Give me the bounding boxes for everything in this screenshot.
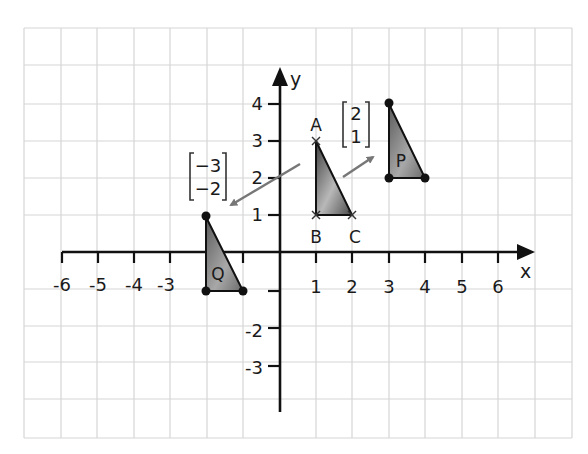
y-tick-label: -3 <box>245 357 263 378</box>
arrow-to-p-icon <box>343 157 373 177</box>
x-tick-label: 5 <box>456 276 467 297</box>
y-tick-label: 3 <box>252 130 263 151</box>
vector-top: 2 <box>350 103 361 124</box>
y-ticks <box>268 104 280 366</box>
x-tick-label: -4 <box>125 274 143 295</box>
shape-label-q: Q <box>211 264 224 284</box>
y-tick-label: 4 <box>252 93 263 114</box>
y-tick-label: -2 <box>245 320 263 341</box>
vertex-label-c: C <box>349 227 361 247</box>
vector-bottom: −2 <box>195 178 222 199</box>
x-tick-label: -5 <box>89 274 107 295</box>
dot-marker-icon <box>202 212 211 221</box>
vertex-label-a: A <box>310 115 322 135</box>
vector-bottom: 1 <box>350 126 361 147</box>
x-tick-label: 1 <box>310 276 321 297</box>
y-axis-arrow-icon <box>272 67 288 86</box>
x-tick-label: 6 <box>492 276 503 297</box>
x-tick-label: 3 <box>383 276 394 297</box>
y-tick-labels: 4 3 2 1 -2 -3 <box>245 93 263 378</box>
dot-marker-icon <box>202 287 211 296</box>
dot-marker-icon <box>239 287 248 296</box>
shape-label-p: P <box>396 151 406 171</box>
vector-to-q: −3 −2 <box>190 153 226 200</box>
y-axis-label: y <box>290 68 301 90</box>
triangle-q: Q <box>202 212 248 296</box>
x-tick-label: -3 <box>157 274 175 295</box>
x-tick-label: 2 <box>346 276 357 297</box>
arrow-to-q-icon <box>231 164 300 205</box>
vector-top: −3 <box>195 155 222 176</box>
x-tick-labels: -6 -5 -4 -3 1 2 3 4 5 6 <box>53 274 504 297</box>
x-axis-arrow-icon <box>517 244 535 260</box>
y-tick-label: 1 <box>252 204 263 225</box>
coordinate-diagram: -6 -5 -4 -3 1 2 3 4 5 6 4 3 2 1 -2 -3 y … <box>0 0 588 454</box>
dot-marker-icon <box>385 174 394 183</box>
x-tick-label: -6 <box>53 274 71 295</box>
vertex-label-b: B <box>310 227 322 247</box>
dot-marker-icon <box>385 99 394 108</box>
x-axis-label: x <box>520 260 531 282</box>
vector-to-p: 2 1 <box>343 102 369 147</box>
x-tick-label: 4 <box>419 276 430 297</box>
dot-marker-icon <box>421 174 430 183</box>
y-tick-label: 2 <box>252 167 263 188</box>
